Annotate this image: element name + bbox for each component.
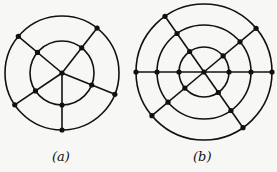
vertex bbox=[269, 69, 274, 74]
vertex bbox=[216, 90, 221, 95]
vertex bbox=[162, 14, 167, 19]
vertex bbox=[59, 127, 64, 132]
vertex bbox=[237, 39, 242, 44]
vertex bbox=[149, 113, 154, 118]
vertex bbox=[16, 34, 21, 39]
spoke bbox=[15, 73, 62, 105]
vertex bbox=[248, 69, 253, 74]
vertex bbox=[12, 102, 17, 107]
spoke bbox=[152, 72, 204, 116]
vertex bbox=[112, 92, 117, 97]
vertex bbox=[221, 53, 226, 58]
figure-a bbox=[5, 16, 119, 133]
vertex bbox=[165, 100, 170, 105]
vertex bbox=[133, 69, 138, 74]
vertex bbox=[176, 69, 181, 74]
vertex bbox=[228, 108, 233, 113]
vertex bbox=[253, 26, 258, 31]
diagram-canvas bbox=[0, 0, 277, 172]
spoke bbox=[204, 28, 256, 72]
vertex bbox=[79, 45, 84, 50]
vertex bbox=[240, 125, 245, 130]
vertex bbox=[33, 88, 38, 93]
spoke bbox=[62, 28, 97, 73]
vertex bbox=[187, 49, 192, 54]
vertex bbox=[174, 31, 179, 36]
vertex bbox=[154, 69, 159, 74]
figure-b bbox=[133, 4, 274, 140]
vertex bbox=[226, 69, 231, 74]
center-vertex bbox=[59, 70, 64, 75]
vertex bbox=[59, 102, 64, 107]
vertex bbox=[89, 82, 94, 87]
vertex bbox=[35, 50, 40, 55]
caption-b: (b) bbox=[193, 149, 211, 164]
center-vertex bbox=[201, 69, 206, 74]
vertex bbox=[94, 25, 99, 30]
vertex bbox=[182, 85, 187, 90]
caption-a: (a) bbox=[52, 149, 70, 164]
